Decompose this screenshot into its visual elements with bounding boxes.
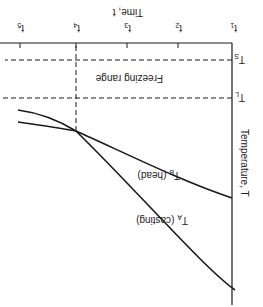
time-axis-label: Time, t xyxy=(113,7,143,18)
cooling-curves-diagram: t1 t2 t3 t4 t5 Time, t TL TS Freezing ra… xyxy=(0,0,263,307)
head-curve-label: TB (head) xyxy=(138,169,180,181)
solidus-label: TS xyxy=(234,53,245,65)
time-ticks xyxy=(20,43,178,48)
temperature-axis-label: Temperature, T xyxy=(239,129,250,197)
curve-head xyxy=(18,122,232,198)
svg-text:t3: t3 xyxy=(124,22,131,34)
tick-labels: t1 t2 t3 t4 t5 xyxy=(17,22,237,34)
svg-text:t5: t5 xyxy=(17,22,24,34)
curve-casting xyxy=(18,110,235,290)
liquidus-label: TL xyxy=(235,91,245,103)
svg-text:t4: t4 xyxy=(73,22,80,34)
svg-text:t1: t1 xyxy=(230,22,237,34)
casting-curve-label: TA (casting) xyxy=(136,214,188,226)
freezing-range-label: Freezing range xyxy=(95,73,163,84)
svg-text:t2: t2 xyxy=(175,22,182,34)
